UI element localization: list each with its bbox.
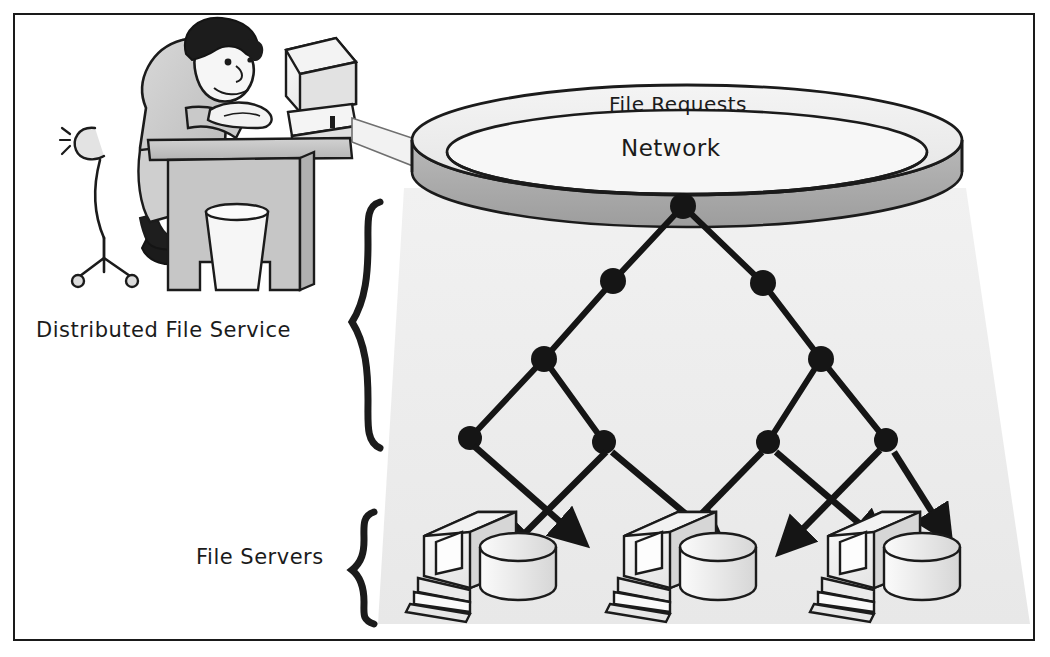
user-computer bbox=[286, 38, 356, 150]
brace-file-servers bbox=[352, 512, 374, 624]
tree-node-rr bbox=[808, 346, 834, 372]
file-servers-label: File Servers bbox=[196, 545, 324, 569]
wastebasket bbox=[206, 204, 268, 290]
diagram-figure: File Requests Network Distributed File S… bbox=[0, 0, 1050, 657]
brace-distributed-file-service bbox=[352, 202, 380, 448]
tree-node-l bbox=[600, 268, 626, 294]
network-ring-network-label: Network bbox=[621, 135, 721, 161]
office-chair bbox=[60, 128, 138, 287]
distributed-file-service-label: Distributed File Service bbox=[36, 318, 291, 342]
tree-node-root bbox=[670, 193, 696, 219]
tree-node-r bbox=[750, 270, 776, 296]
network-cable bbox=[352, 118, 418, 168]
tree-node-ll bbox=[531, 346, 557, 372]
network-ring-file-requests-label: File Requests bbox=[609, 92, 747, 116]
